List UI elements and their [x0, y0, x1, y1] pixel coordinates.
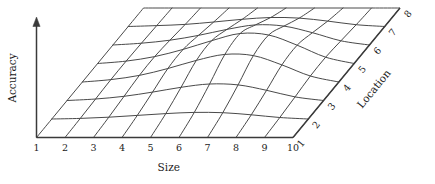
size-tick-label-5: 5	[147, 142, 153, 153]
location-tick-label-7: 7	[386, 26, 398, 38]
location-tick-label-5: 5	[356, 63, 368, 75]
size-tick-label-8: 8	[233, 142, 239, 153]
location-tick-label-4: 4	[340, 82, 352, 94]
accuracy-axis-arrow-icon	[33, 17, 40, 27]
size-tick-label-3: 3	[90, 142, 96, 153]
size-tick-label-1: 1	[33, 142, 39, 153]
size-tick-label-2: 2	[62, 142, 68, 153]
surface-wireframe	[37, 8, 401, 138]
surface-line-location-2	[52, 112, 309, 119]
location-tick-label-6: 6	[371, 45, 383, 57]
location-axis-title: Location	[354, 67, 393, 110]
location-tick-label-2: 2	[310, 119, 322, 131]
surface-line-location-5	[98, 33, 355, 63]
size-tick-label-7: 7	[204, 142, 210, 153]
size-tick-label-4: 4	[119, 142, 125, 153]
surface-line-size-4	[122, 8, 229, 138]
surface-line-size-3	[94, 8, 201, 138]
location-tick-label-3: 3	[325, 100, 337, 112]
accuracy-axis-title: Accuracy	[6, 53, 18, 103]
size-tick-label-9: 9	[261, 142, 267, 153]
surface-line-size-2	[65, 8, 172, 138]
size-tick-label-6: 6	[176, 142, 182, 153]
surface-line-location-6	[113, 25, 370, 45]
plot-canvas: 12345678910Size12345678LocationAccuracy	[0, 0, 435, 184]
surface-plot-figure: 12345678910Size12345678LocationAccuracy	[0, 0, 435, 184]
location-tick-label-8: 8	[402, 8, 414, 20]
surface-line-size-5	[151, 8, 258, 138]
surface-line-size-6	[179, 8, 286, 138]
size-axis-title: Size	[158, 161, 180, 173]
